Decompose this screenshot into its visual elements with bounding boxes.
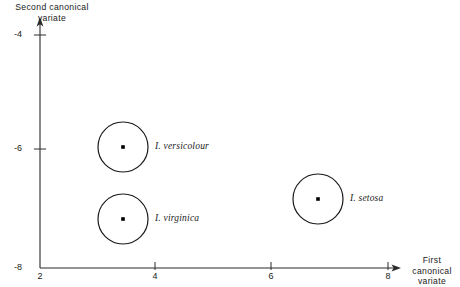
x-tick-label-2: 2 [27, 271, 53, 281]
canonical-variate-scatter-figure: Second canonical variate First canonical… [0, 0, 460, 287]
group-label-setosa: I. setosa [350, 193, 383, 203]
group-label-virginica: I. virginica [155, 213, 199, 223]
y-tick-label-minus6: -6 [5, 143, 31, 153]
plot-area [0, 0, 460, 287]
group-centroid-setosa [316, 197, 320, 201]
x-axis-title: First canonical variate [404, 255, 460, 287]
y-tick-label-minus4: -4 [5, 29, 31, 39]
x-tick-label-4: 4 [142, 271, 168, 281]
group-centroid-versicolour [121, 145, 125, 149]
group-centroid-virginica [121, 217, 125, 221]
y-axis-title: Second canonical variate [3, 2, 101, 23]
x-tick-label-8: 8 [375, 271, 401, 281]
x-tick-label-6: 6 [258, 271, 284, 281]
group-label-versicolour: I. versicolour [155, 141, 209, 151]
